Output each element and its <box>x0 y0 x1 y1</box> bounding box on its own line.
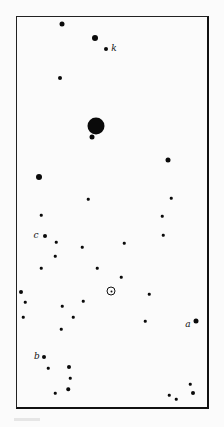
star-dot-icon <box>47 367 50 370</box>
star-dot-icon <box>54 255 57 258</box>
star-dot-icon <box>168 394 171 397</box>
star-dot-icon <box>36 174 42 180</box>
star-dot-icon <box>123 242 126 245</box>
star-label-k: k <box>111 44 116 53</box>
star-dot-icon <box>191 391 195 395</box>
star-dot-icon <box>19 290 23 294</box>
star-dot-icon <box>87 198 90 201</box>
star-dot-icon <box>66 387 70 391</box>
star-dot-icon <box>90 135 95 140</box>
star-dot-icon <box>22 316 25 319</box>
star-dot-icon <box>40 267 43 270</box>
star-dot-icon <box>67 365 71 369</box>
star-label-c: c <box>33 231 38 240</box>
star-dot-icon <box>82 300 85 303</box>
star-dot-icon <box>69 377 72 380</box>
star-dot-icon <box>96 267 99 270</box>
star-dot-icon <box>58 76 62 80</box>
star-dot-icon <box>54 392 57 395</box>
star-label-b: b <box>34 352 40 361</box>
star-dot-icon <box>170 197 173 200</box>
star-dot-icon <box>144 320 147 323</box>
star-dot-icon <box>81 246 84 249</box>
star-dot-icon <box>24 301 27 304</box>
star-label-a: a <box>185 320 190 329</box>
star-dot-icon <box>60 22 65 27</box>
star-dot-icon <box>189 383 192 386</box>
star-dot-icon <box>161 215 164 218</box>
scan-mark <box>14 418 40 421</box>
star-dot-icon <box>60 328 63 331</box>
star-dot-icon <box>194 319 199 324</box>
star-dot-icon <box>88 118 105 135</box>
star-dot-icon <box>175 398 178 401</box>
star-dot-icon <box>61 305 64 308</box>
star-dot-icon <box>55 241 58 244</box>
star-dot-icon <box>162 234 165 237</box>
star-dot-icon <box>104 47 108 51</box>
sun-symbol-icon <box>107 287 116 296</box>
star-dot-icon <box>166 158 171 163</box>
star-dot-icon <box>43 234 47 238</box>
star-dot-icon <box>40 214 43 217</box>
star-dot-icon <box>120 276 123 279</box>
star-dot-icon <box>148 293 151 296</box>
star-dot-icon <box>42 355 46 359</box>
star-dot-icon <box>92 35 98 41</box>
star-dot-icon <box>72 316 75 319</box>
star-map-frame <box>16 16 209 409</box>
